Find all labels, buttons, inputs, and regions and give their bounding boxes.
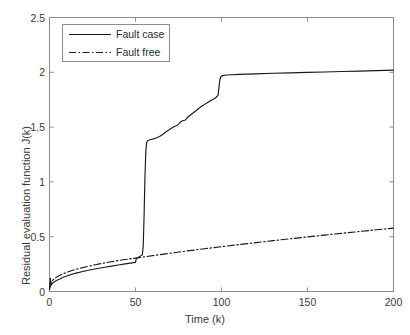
legend-item-fault-case[interactable]: Fault case [63, 25, 171, 44]
series-line-fault-free [50, 228, 394, 289]
x-tick-label: 50 [130, 296, 142, 308]
legend-item-fault-free[interactable]: Fault free [63, 43, 171, 62]
y-tick-label: 1.5 [30, 121, 45, 133]
x-tick-label: 0 [47, 296, 53, 308]
y-tick-label: 0 [39, 286, 45, 298]
legend[interactable]: Fault case Fault free [62, 24, 170, 62]
legend-line-sample-solid [69, 33, 111, 36]
legend-line-sample-dashdot [69, 51, 111, 54]
series-line-fault-case [50, 70, 394, 289]
y-tick-label: 0.5 [30, 231, 45, 243]
data-series-group [50, 70, 394, 289]
x-tick-label: 100 [213, 296, 231, 308]
x-tick-label: 200 [385, 296, 403, 308]
legend-label-fault-free: Fault free [116, 46, 160, 58]
x-tick-label: 150 [299, 296, 317, 308]
legend-label-fault-case: Fault case [116, 28, 164, 40]
y-tick-label: 2.5 [30, 12, 45, 24]
chart-figure: Residual evaluation function J(k) Time (… [0, 0, 410, 335]
y-tick-label: 2 [39, 66, 45, 78]
y-tick-label: 1 [39, 176, 45, 188]
